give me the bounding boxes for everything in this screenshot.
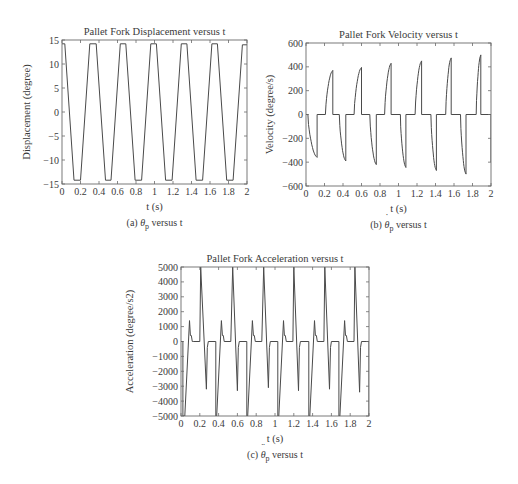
y-tick-label: −4000 [152,396,178,407]
x-tick-label: 1.6 [204,186,217,197]
y-tick-label: 0 [54,107,59,118]
figure-caption: (c) θp versus t [247,449,303,463]
x-tick-label: 1.4 [306,418,319,429]
x-tick-label: 0 [60,186,65,197]
y-tick-label: 0 [298,109,303,120]
x-tick-label: 1 [273,418,278,429]
x-tick-label: 1.8 [222,186,235,197]
y-axis-label: Velocity (degree/s) [264,74,276,154]
data-series-line [306,55,491,174]
y-tick-label: 600 [288,38,303,49]
y-axis-label: Displacement (degree) [21,64,33,160]
figure-caption: (a) θp versus t [127,217,183,231]
x-tick-label: 0.6 [111,186,124,197]
y-tick-label: −5 [48,131,59,142]
chart-panel-displacement: Pallet Fork Displacement versus t00.20.4… [0,0,259,235]
y-tick-label: 200 [288,85,303,96]
x-tick-label: 0.4 [93,186,106,197]
y-tick-label: 2000 [158,306,178,317]
y-tick-label: 4000 [158,276,178,287]
x-tick-label: 1.2 [167,186,180,197]
y-tick-label: 5 [54,83,59,94]
chart-panel-acceleration: Pallet Fork Acceleration versus t00.20.4… [110,240,410,484]
x-tick-label: 1.6 [325,418,338,429]
velocity-chart: Pallet Fork Velocity versus t00.20.40.60… [259,0,518,235]
x-axis-label: t (s) [267,433,284,445]
x-tick-label: 0.8 [130,186,143,197]
chart-title: Pallet Fork Displacement versus t [84,26,226,37]
x-tick-label: 0.8 [250,418,263,429]
x-tick-label: 2 [245,186,250,197]
x-tick-label: 0.4 [337,188,350,199]
figure-caption: (b) θp versus t [370,219,427,233]
x-tick-label: 1.4 [185,186,198,197]
data-series-line [62,44,247,180]
x-tick-label: 1 [396,188,401,199]
chart-title: Pallet Fork Velocity versus t [339,29,458,40]
y-tick-label: 3000 [158,291,178,302]
chart-panel-velocity: Pallet Fork Velocity versus t00.20.40.60… [259,0,518,235]
y-tick-label: −2000 [152,366,178,377]
y-tick-label: −1000 [152,351,178,362]
y-tick-label: −15 [43,179,59,190]
x-tick-label: 0.8 [374,188,387,199]
x-tick-label: 1.2 [411,188,424,199]
chart-title: Pallet Fork Acceleration versus t [206,253,343,264]
x-tick-label: 1.2 [288,418,301,429]
x-tick-label: 1 [152,186,157,197]
y-tick-label: 1000 [158,321,178,332]
y-tick-label: −5000 [152,411,178,422]
x-tick-label: 0 [304,188,309,199]
x-tick-label: 0.2 [318,188,331,199]
data-series-line [181,267,369,416]
plot-frame [62,40,247,184]
y-tick-label: −3000 [152,381,178,392]
x-tick-label: 0.2 [194,418,207,429]
x-tick-label: 1.8 [344,418,357,429]
y-tick-label: −600 [282,181,303,192]
y-tick-label: 400 [288,61,303,72]
x-tick-label: 2 [489,188,494,199]
x-tick-label: 2 [367,418,372,429]
x-tick-label: 0.6 [355,188,368,199]
displacement-chart: Pallet Fork Displacement versus t00.20.4… [0,0,259,235]
acceleration-chart: Pallet Fork Acceleration versus t00.20.4… [110,240,410,484]
x-tick-label: 1.4 [429,188,442,199]
x-tick-label: 0.6 [231,418,244,429]
x-tick-label: 1.6 [448,188,461,199]
x-axis-label: t (s) [390,203,407,215]
y-tick-label: 5000 [158,262,178,273]
x-tick-label: 0.2 [74,186,87,197]
y-tick-label: 10 [49,59,59,70]
caption-accent: ˙ [385,212,388,223]
y-tick-label: −10 [43,155,59,166]
y-axis-label: Acceleration (degree/s2) [124,289,136,393]
y-tick-label: −200 [282,133,303,144]
x-tick-label: 0 [179,418,184,429]
x-tick-label: 0.4 [212,418,225,429]
x-axis-label: t (s) [146,201,163,213]
y-tick-label: 0 [173,336,178,347]
y-tick-label: 15 [49,35,59,46]
y-tick-label: −400 [282,157,303,168]
x-tick-label: 1.8 [466,188,479,199]
